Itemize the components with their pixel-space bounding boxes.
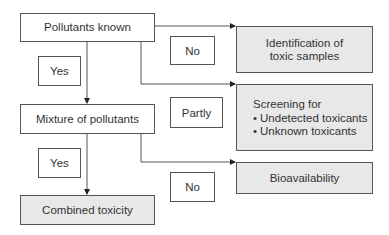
edge-label-yes-1: Yes xyxy=(38,56,81,86)
node-combined-toxicity: Combined toxicity xyxy=(20,195,155,225)
node-identification-line1: Identification of xyxy=(266,37,343,50)
screening-item: Unknown toxicants xyxy=(253,125,367,138)
node-screening: Screening for Undetected toxicants Unkno… xyxy=(236,84,373,151)
screening-item: Undetected toxicants xyxy=(253,112,367,125)
node-pollutants-known: Pollutants known xyxy=(20,13,155,42)
node-mixture-label: Mixture of pollutants xyxy=(36,113,139,126)
edge-label-no-2: No xyxy=(170,172,215,202)
node-mixture-of-pollutants: Mixture of pollutants xyxy=(20,104,155,134)
node-pollutants-known-label: Pollutants known xyxy=(44,21,131,34)
node-screening-title: Screening for xyxy=(253,98,321,111)
screening-list: Undetected toxicants Unknown toxicants xyxy=(253,112,367,138)
node-bioavailability-label: Bioavailability xyxy=(270,172,340,185)
node-identification-line2: toxic samples xyxy=(270,50,340,63)
edge-label-yes-2: Yes xyxy=(38,148,81,178)
node-combined-label: Combined toxicity xyxy=(42,204,133,217)
edge-label-no-1: No xyxy=(170,36,215,65)
node-bioavailability: Bioavailability xyxy=(236,162,373,194)
edge-label-partly: Partly xyxy=(170,97,223,128)
node-identification: Identification of toxic samples xyxy=(236,26,373,73)
